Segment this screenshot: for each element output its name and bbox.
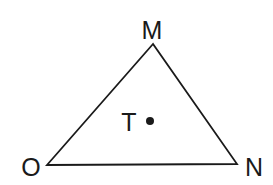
diagram-canvas: M O N T [0, 0, 273, 185]
point-t-dot [146, 117, 154, 125]
vertex-label-m: M [142, 16, 163, 44]
vertex-label-n: N [245, 153, 263, 181]
triangle-diagram: M O N T [0, 0, 273, 185]
vertex-label-o: O [21, 153, 40, 181]
triangle-mon [47, 44, 237, 165]
point-label-t: T [121, 108, 136, 136]
